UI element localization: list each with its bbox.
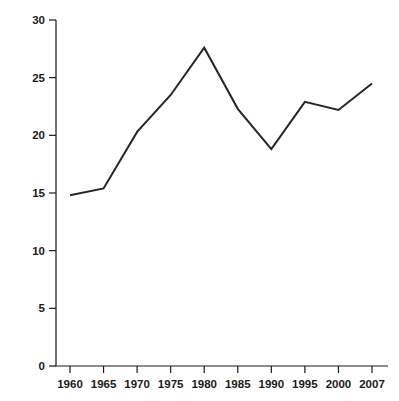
x-tick-label: 1975 bbox=[158, 378, 184, 390]
x-tick-label: 2000 bbox=[326, 378, 352, 390]
y-tick-label: 15 bbox=[32, 187, 45, 199]
chart-plot-area: 051015202530 196019651970197519801985199… bbox=[0, 0, 399, 401]
x-axis-ticks: 1960196519701975198019851990199520002007 bbox=[57, 366, 385, 390]
x-tick-label: 1985 bbox=[225, 378, 251, 390]
x-tick-label: 1995 bbox=[292, 378, 318, 390]
axes-group bbox=[56, 20, 388, 366]
x-tick-label: 1990 bbox=[259, 378, 285, 390]
x-tick-label: 1970 bbox=[124, 378, 150, 390]
x-tick-label: 1960 bbox=[57, 378, 83, 390]
axis-lines bbox=[56, 20, 388, 366]
y-tick-label: 20 bbox=[32, 129, 45, 141]
y-tick-label: 5 bbox=[39, 302, 46, 314]
y-tick-label: 25 bbox=[32, 72, 45, 84]
y-tick-label: 0 bbox=[39, 360, 45, 372]
y-tick-label: 10 bbox=[32, 245, 45, 257]
x-tick-label: 1980 bbox=[191, 378, 217, 390]
line-chart: Percent State-Local Revenues from Federa… bbox=[0, 0, 399, 401]
x-tick-label: 1965 bbox=[91, 378, 117, 390]
y-tick-label: 30 bbox=[32, 14, 45, 26]
data-series-line bbox=[70, 48, 372, 196]
y-axis-ticks: 051015202530 bbox=[32, 14, 56, 372]
x-tick-label: 2007 bbox=[359, 378, 385, 390]
